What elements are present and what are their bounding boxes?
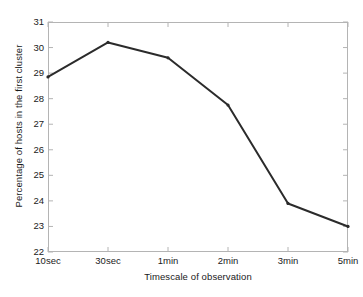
data-point (46, 75, 49, 78)
x-axis-tick-label: 30sec (78, 255, 138, 267)
data-point (346, 225, 349, 228)
y-axis-tick-text: 29 (22, 68, 44, 78)
x-axis-tick-text: 10sec (18, 255, 78, 267)
y-axis-tick-text: 26 (22, 145, 44, 155)
x-axis-title: Timescale of observation (48, 271, 348, 282)
x-axis-tick-text: 1min (138, 255, 198, 267)
y-axis-tick-text: 30 (22, 43, 44, 53)
y-axis-tick-label: 31 (22, 17, 44, 27)
data-point (166, 56, 169, 59)
data-line-series (48, 42, 348, 226)
x-axis-tick-text: 2min (198, 255, 258, 267)
x-axis-tick-label: 2min (198, 255, 258, 267)
data-point (106, 41, 109, 44)
x-axis-tick-text: 5min (318, 255, 363, 267)
y-axis-tick-label: 24 (22, 196, 44, 206)
x-axis-tick-label: 1min (138, 255, 198, 267)
y-axis-tick-label: 27 (22, 119, 44, 129)
y-axis-tick-label: 23 (22, 221, 44, 231)
y-axis-tick-text: 25 (22, 170, 44, 180)
x-axis-tick-label: 10sec (18, 255, 78, 267)
y-axis-tick-marks (48, 22, 348, 252)
y-axis-tick-text: 28 (22, 94, 44, 104)
y-axis-tick-text: 27 (22, 119, 44, 129)
x-axis-tick-text: 30sec (78, 255, 138, 267)
y-axis-tick-text: 31 (22, 17, 44, 27)
x-axis-tick-text: 3min (258, 255, 318, 267)
data-point (226, 103, 229, 106)
y-axis-tick-label: 26 (22, 145, 44, 155)
y-axis-tick-label: 30 (22, 43, 44, 53)
y-axis-tick-text: 24 (22, 196, 44, 206)
x-axis-tick-label: 3min (258, 255, 318, 267)
y-axis-tick-label: 29 (22, 68, 44, 78)
x-axis-tick-marks (48, 22, 348, 252)
data-point (286, 202, 289, 205)
y-axis-tick-label: 25 (22, 170, 44, 180)
y-axis-tick-label: 28 (22, 94, 44, 104)
x-axis-tick-label: 5min (318, 255, 363, 267)
data-point-markers (46, 41, 349, 228)
y-axis-tick-text: 23 (22, 221, 44, 231)
chart-plot-svg (48, 22, 348, 252)
